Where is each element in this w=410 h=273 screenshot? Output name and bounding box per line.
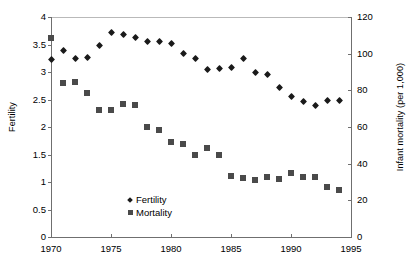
tick-mark (348, 127, 352, 128)
tick-mark (348, 90, 352, 91)
tick-mark (48, 127, 52, 128)
y-axis-right-tick-label: 40 (357, 158, 385, 169)
data-point-mortality (168, 139, 174, 145)
y-axis-right-tick-label: 0 (357, 231, 385, 242)
legend-item-mortality: Mortality (124, 206, 172, 219)
y-axis-left-tick-label: 1.5 (18, 149, 46, 160)
y-axis-right-tick-label: 80 (357, 84, 385, 95)
data-point-fertility (119, 31, 126, 38)
legend-item-fertility: Fertility (124, 193, 172, 206)
tick-mark (48, 210, 52, 211)
data-point-mortality (300, 174, 306, 180)
tick-mark (48, 72, 52, 73)
data-point-mortality (60, 80, 66, 86)
y-axis-left-tick-label: 0.5 (18, 204, 46, 215)
data-point-fertility (47, 56, 54, 63)
data-point-mortality (228, 173, 234, 179)
data-point-mortality (120, 101, 126, 107)
data-point-fertility (251, 69, 258, 76)
data-point-fertility (287, 93, 294, 100)
tick-mark (48, 182, 52, 183)
data-point-fertility (215, 65, 222, 72)
tick-mark (231, 234, 232, 238)
tick-mark (48, 155, 52, 156)
data-point-mortality (264, 174, 270, 180)
data-point-mortality (324, 184, 330, 190)
y-axis-left-tick-label: 3 (18, 66, 46, 77)
chart-figure: Fertility Infant mortality (per 1,000) F… (0, 0, 410, 273)
data-point-fertility (83, 54, 90, 61)
data-point-fertility (179, 50, 186, 57)
tick-mark (348, 54, 352, 55)
square-marker-icon (124, 210, 136, 215)
data-point-fertility (239, 55, 246, 62)
data-point-fertility (263, 71, 270, 78)
x-axis-tick-label: 1980 (151, 243, 191, 254)
axis-line-top (51, 17, 352, 18)
data-point-mortality (276, 176, 282, 182)
data-point-mortality (288, 170, 294, 176)
x-axis-tick-label: 1985 (211, 243, 251, 254)
y-axis-right-title: Infant mortality (per 1,000) (395, 37, 405, 197)
data-point-fertility (95, 42, 102, 49)
y-axis-right-tick-label: 60 (357, 121, 385, 132)
data-point-mortality (108, 107, 114, 113)
data-point-fertility (155, 38, 162, 45)
y-axis-right-tick-label: 20 (357, 194, 385, 205)
data-point-fertility (167, 40, 174, 47)
data-point-fertility (299, 98, 306, 105)
data-point-mortality (132, 102, 138, 108)
data-point-mortality (192, 152, 198, 158)
data-point-fertility (107, 29, 114, 36)
x-axis-tick-label: 1970 (31, 243, 71, 254)
data-point-mortality (240, 175, 246, 181)
y-axis-right-tick-label: 120 (357, 11, 385, 22)
data-point-fertility (203, 66, 210, 73)
tick-mark (48, 100, 52, 101)
y-axis-right-tick-label: 100 (357, 48, 385, 59)
tick-mark (348, 164, 352, 165)
data-point-fertility (227, 64, 234, 71)
y-axis-left-tick-label: 4 (18, 11, 46, 22)
data-point-mortality (252, 177, 258, 183)
y-axis-left-tick-label: 2 (18, 121, 46, 132)
legend-label-fertility: Fertility (136, 193, 167, 206)
data-point-fertility (143, 38, 150, 45)
y-axis-left-tick-label: 2.5 (18, 94, 46, 105)
data-point-mortality (144, 124, 150, 130)
data-point-fertility (335, 97, 342, 104)
data-point-mortality (204, 145, 210, 151)
data-point-fertility (131, 34, 138, 41)
data-point-fertility (311, 102, 318, 109)
y-axis-left-title: Fertility (7, 77, 17, 157)
tick-mark (291, 234, 292, 238)
tick-mark (351, 234, 352, 238)
data-point-fertility (191, 55, 198, 62)
y-axis-left-tick-label: 3.5 (18, 39, 46, 50)
data-point-mortality (96, 107, 102, 113)
tick-mark (348, 200, 352, 201)
data-point-fertility (323, 97, 330, 104)
tick-mark (111, 234, 112, 238)
tick-mark (51, 234, 52, 238)
data-point-mortality (48, 35, 54, 41)
data-point-fertility (275, 84, 282, 91)
x-axis-tick-label: 1995 (331, 243, 371, 254)
legend-label-mortality: Mortality (136, 206, 172, 219)
y-axis-left-tick-label: 0 (18, 231, 46, 242)
data-point-mortality (312, 174, 318, 180)
plot-area: Fertility Mortality (51, 17, 352, 238)
x-axis-tick-label: 1975 (91, 243, 131, 254)
data-point-mortality (336, 187, 342, 193)
data-point-mortality (216, 152, 222, 158)
diamond-marker-icon (124, 198, 136, 202)
data-point-mortality (72, 79, 78, 85)
tick-mark (48, 17, 52, 18)
axis-line-bottom (51, 237, 352, 238)
data-point-mortality (84, 90, 90, 96)
y-axis-left-tick-label: 1 (18, 176, 46, 187)
data-point-fertility (59, 47, 66, 54)
data-point-fertility (71, 55, 78, 62)
data-point-mortality (156, 127, 162, 133)
data-point-mortality (180, 141, 186, 147)
